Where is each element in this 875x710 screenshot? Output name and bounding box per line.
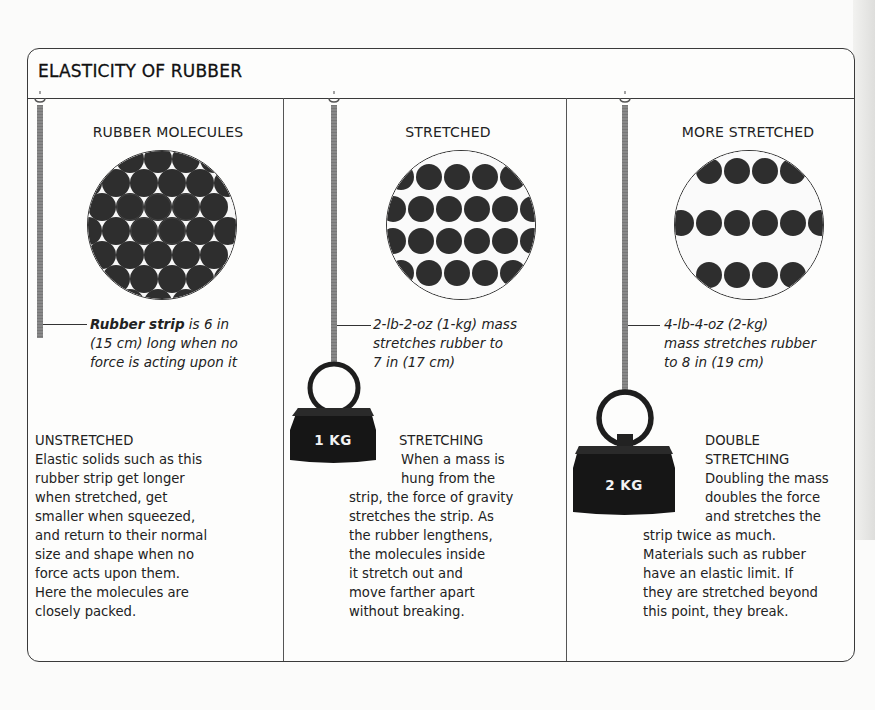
column-divider-1	[283, 98, 284, 661]
packed-molecules-graphic	[88, 151, 236, 299]
rubber-strip-stretched	[331, 105, 337, 366]
caption-unstretched: Rubber strip is 6 in (15 cm) long when n…	[90, 315, 280, 372]
hook-icon	[326, 90, 342, 106]
caption-leader-line	[628, 325, 660, 326]
rubber-strip-unstretched	[37, 105, 43, 338]
section-heading-stretching: STRETCHING	[349, 431, 564, 450]
heading-rubber-molecules: RUBBER MOLECULES	[68, 124, 268, 140]
hook-icon	[32, 90, 48, 106]
caption-1kg: 2-lb-2-oz (1-kg) mass stretches rubber t…	[373, 315, 568, 372]
section-heading-stretching-2: STRETCHING	[643, 450, 858, 469]
panel-title: ELASTICITY OF RUBBER	[38, 61, 242, 81]
more-stretched-molecules-graphic	[675, 151, 823, 299]
text-double-stretching: DOUBLE STRETCHING Doubling the mass doub…	[643, 431, 858, 621]
text-stretching: STRETCHING When a mass is hung from the …	[349, 431, 564, 621]
molecules-more-stretched-diagram	[674, 150, 824, 300]
caption-2kg: 4-lb-4-oz (2-kg) mass stretches rubber t…	[664, 315, 849, 372]
molecules-stretched-diagram	[386, 150, 536, 300]
caption-leader-line	[337, 325, 371, 326]
caption-bold-term: Rubber strip	[90, 316, 185, 332]
caption-leader-line	[43, 324, 87, 325]
elasticity-panel: ELASTICITY OF RUBBER RUBBER MOLECULES	[27, 48, 855, 662]
section-heading-double: DOUBLE	[643, 431, 858, 450]
stretched-molecules-graphic	[387, 151, 535, 299]
column-divider-2	[566, 98, 567, 661]
title-divider	[28, 98, 854, 99]
heading-stretched: STRETCHED	[368, 124, 528, 140]
text-unstretched: UNSTRETCHED Elastic solids such as this …	[35, 431, 275, 621]
molecules-packed-diagram	[87, 150, 237, 300]
hook-icon	[617, 90, 633, 106]
heading-more-stretched: MORE STRETCHED	[653, 124, 843, 140]
rubber-strip-more-stretched	[622, 105, 628, 395]
section-heading-unstretched: UNSTRETCHED	[35, 431, 275, 450]
